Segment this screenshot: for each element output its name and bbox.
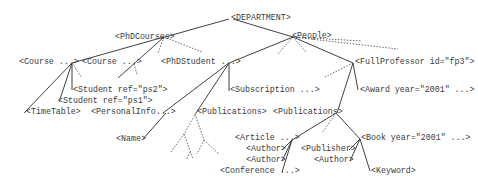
node-publications-2: <Publications> <box>273 107 343 116</box>
node-name: <Name> <box>116 134 146 143</box>
node-publisher: <Publisher> <box>301 144 356 153</box>
node-student-ps1: <Student ref="ps1"> <box>58 96 153 105</box>
node-author-3: <Author> <box>314 155 354 164</box>
node-author-2: <Author> <box>246 155 286 164</box>
node-article: <Article ...> <box>235 133 300 142</box>
node-timetable: <TimeTable> <box>26 107 81 116</box>
node-course-2: <Course ...> <box>82 57 142 66</box>
tree-nodes: <DEPARTMENT> <PhDCourses> <People> <Cour… <box>19 13 475 175</box>
node-course-1: <Course ...> <box>19 57 79 66</box>
node-student-ps2: <Student ref="ps2"> <box>73 85 168 94</box>
node-phdstudent: <PhDStudent ...> <box>161 57 241 66</box>
node-conference: <Conference ...> <box>220 166 300 175</box>
node-keyword: <Keyword> <box>371 166 416 175</box>
node-subscription: <Subscription ...> <box>230 85 320 94</box>
node-phdcourses: <PhDCourses> <box>115 32 175 41</box>
xml-tree-diagram: <DEPARTMENT> <PhDCourses> <People> <Cour… <box>0 0 478 187</box>
node-author-1: <Author> <box>246 144 286 153</box>
node-book: <Book year="2001" ...> <box>361 133 471 142</box>
node-award: <Award year="2001" ...> <box>360 85 475 94</box>
node-people: <People> <box>292 31 332 40</box>
node-publications-1: <Publications> <box>197 107 267 116</box>
node-department: <DEPARTMENT> <box>231 13 291 22</box>
node-fullprofessor: <FullProfessor id="fp3"> <box>355 57 475 66</box>
node-personalinfo: <PersonalInfo...> <box>91 107 176 116</box>
